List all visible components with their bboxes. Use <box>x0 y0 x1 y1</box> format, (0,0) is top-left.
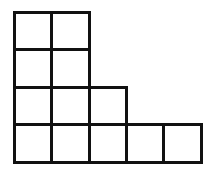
diagram-cell <box>88 86 129 127</box>
diagram-cell <box>13 48 54 89</box>
young-diagram <box>0 0 209 171</box>
diagram-cell <box>125 123 166 164</box>
diagram-cell <box>13 123 54 164</box>
diagram-cell <box>13 86 54 127</box>
diagram-cell <box>13 11 54 52</box>
diagram-cell <box>50 123 91 164</box>
diagram-cell <box>50 86 91 127</box>
diagram-cell <box>162 123 203 164</box>
diagram-cell <box>50 11 91 52</box>
diagram-cell <box>50 48 91 89</box>
diagram-cell <box>88 123 129 164</box>
